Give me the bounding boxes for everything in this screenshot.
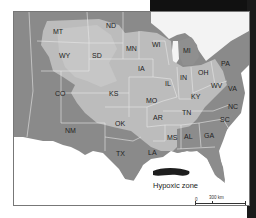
state-label-al: AL (184, 133, 193, 140)
state-label-sd: SD (92, 52, 102, 59)
state-label-pa: PA (221, 60, 230, 67)
state-label-ia: IA (138, 65, 145, 72)
state-label-ga: GA (204, 132, 214, 139)
state-label-la: LA (148, 149, 157, 156)
state-label-ok: OK (115, 120, 125, 127)
scale-mi-label: 300 miles (226, 205, 245, 206)
state-label-mn: MN (126, 45, 137, 52)
state-label-sc: SC (220, 116, 230, 123)
map-frame: MTNDWYSDMNWIMIIACOKSILINOHPAWVVAMOKYNCTN… (13, 11, 250, 206)
state-label-ky: KY (191, 93, 200, 100)
state-label-mi: MI (183, 47, 191, 54)
state-label-wy: WY (59, 52, 70, 59)
us-map (14, 12, 249, 205)
state-label-ks: KS (109, 90, 118, 97)
state-label-in: IN (180, 74, 187, 81)
scale-zero-mi: 0 (195, 205, 198, 206)
scale-line (195, 203, 245, 204)
state-label-mo: MO (146, 97, 157, 104)
state-label-mt: MT (53, 28, 63, 35)
state-label-co: CO (55, 90, 66, 97)
state-label-ms: MS (167, 134, 178, 141)
state-label-nd: ND (106, 22, 116, 29)
state-label-ar: AR (153, 114, 163, 121)
state-label-tn: TN (182, 109, 191, 116)
hypoxic-zone-label: Hypoxic zone (153, 181, 198, 190)
state-label-tx: TX (116, 150, 125, 157)
state-label-nc: NC (228, 103, 238, 110)
scale-tick-300km (212, 201, 213, 204)
state-label-wv: WV (211, 82, 222, 89)
scale-km-label: 300 km (209, 195, 224, 200)
state-label-wi: WI (152, 41, 161, 48)
state-label-va: VA (228, 85, 237, 92)
state-label-il: IL (165, 80, 171, 87)
state-label-nm: NM (65, 127, 76, 134)
state-label-oh: OH (198, 69, 209, 76)
